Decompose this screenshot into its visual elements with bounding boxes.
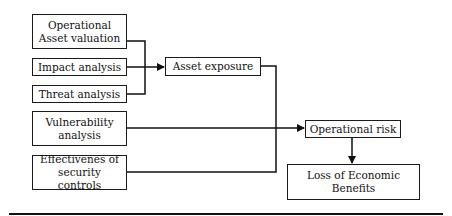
connector-exposure-to-risk — [126, 66, 276, 172]
bottom-rule — [9, 213, 443, 215]
node-loss-benefits: Loss of EconomicBenefits — [287, 164, 420, 200]
node-asset-exposure: Asset exposure — [165, 57, 261, 76]
node-security-controls: Effectivenes ofsecurity controls — [32, 155, 127, 190]
node-impact-analysis: Impact analysis — [32, 58, 127, 76]
node-vulnerability-analysis: Vulnerabilityanalysis — [32, 111, 127, 146]
node-threat-analysis: Threat analysis — [32, 85, 127, 103]
node-operational-risk: Operational risk — [305, 120, 401, 138]
node-asset-valuation: OperationalAsset valuation — [32, 14, 127, 49]
